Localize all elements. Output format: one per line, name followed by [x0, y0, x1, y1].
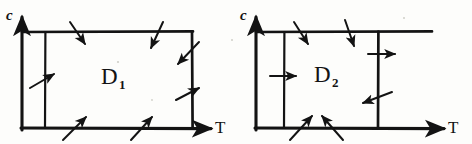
d2-t-axis-label: T: [448, 118, 459, 137]
d1-t-axis-label: T: [215, 118, 226, 137]
panel-d1: c T D 1: [6, 7, 226, 140]
d1-arrow-right-lower-inward: [176, 88, 199, 100]
d1-arrow-left-inner-inward: [30, 74, 54, 88]
d1-arrow-top-right-inward: [151, 22, 163, 48]
figure-container: c T D 1: [0, 0, 472, 144]
d2-region-subscript: 2: [332, 75, 339, 90]
diagram-canvas: c T D 1: [0, 0, 472, 144]
panel-d2: c T D 2: [240, 7, 459, 140]
d1-c-axis-label: c: [6, 7, 13, 23]
d2-top-edge: [256, 31, 432, 32]
d2-c-axis-label: c: [240, 7, 247, 23]
d1-right-edge: [192, 32, 193, 128]
d1-t-axis: [21, 128, 211, 129]
d2-region-label: D: [314, 62, 331, 87]
d1-region-subscript: 1: [119, 77, 126, 92]
d1-top-edge: [22, 31, 193, 32]
d1-arrow-right-upper-inward: [178, 42, 199, 64]
d1-region-label: D: [101, 64, 118, 89]
d2-box: [256, 31, 432, 128]
